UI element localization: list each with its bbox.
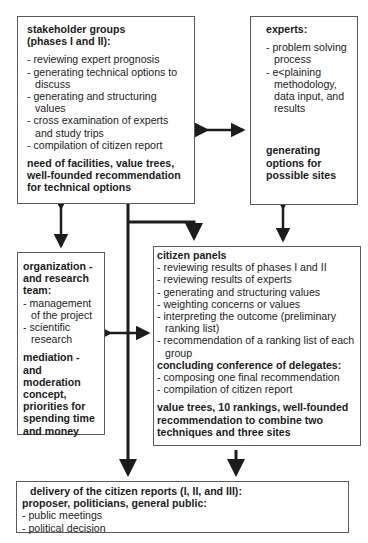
citizen-panels-outcome: value trees, 10 rankings, well-founded r… bbox=[157, 401, 356, 438]
delegates-item: - compilation of citizen report bbox=[157, 383, 356, 395]
stakeholder-outcome: need of facilities, value trees, well-fo… bbox=[27, 157, 187, 194]
citizen-panels-item: - weighting concerns or values bbox=[157, 298, 356, 310]
delivery-box: delivery of the citizen reports (I, II, … bbox=[16, 481, 349, 533]
delegates-conference-title: concluding conference of delegates: bbox=[157, 359, 356, 371]
stakeholder-item: - reviewing expert prognosis bbox=[27, 53, 187, 65]
citizen-panels-item: - reviewing results of experts bbox=[157, 273, 356, 285]
citizen-panels-item: - generating and structuring values bbox=[157, 286, 356, 298]
delivery-item: - political decision bbox=[22, 522, 343, 534]
delivery-audience: proposer, politicians, general public: bbox=[22, 497, 343, 509]
organization-item: - management of the project bbox=[23, 297, 101, 321]
stakeholder-item: - cross examination of experts and study… bbox=[27, 114, 187, 138]
stakeholder-item: - generating and structuring values bbox=[27, 90, 187, 114]
experts-outcome: generating options for possible sites bbox=[266, 144, 351, 181]
citizen-panels-title: citizen panels bbox=[157, 249, 356, 261]
stakeholder-groups-box: stakeholder groups (phases I and II): - … bbox=[17, 16, 195, 204]
delivery-item: - public meetings bbox=[22, 509, 343, 521]
experts-item: - e<plaining methodology, data input, an… bbox=[266, 66, 351, 115]
citizen-panels-box: citizen panels - reviewing results of ph… bbox=[153, 246, 361, 446]
stakeholder-item: - generating technical options to discus… bbox=[27, 66, 187, 90]
delivery-title: delivery of the citizen reports (I, II, … bbox=[22, 485, 343, 497]
organization-outcome: mediation - and moderation concept, prio… bbox=[23, 351, 101, 436]
experts-item: - problem solving process bbox=[266, 41, 351, 65]
stakeholder-title-phase: (phases I and II): bbox=[27, 35, 187, 47]
citizen-panels-item: - recommendation of a ranking list of ea… bbox=[157, 334, 356, 358]
experts-title: experts: bbox=[266, 23, 351, 35]
arrow-stakeholder-citizen bbox=[128, 222, 194, 238]
delegates-item: - composing one final recommendation bbox=[157, 371, 356, 383]
citizen-panels-item: - reviewing results of phases I and II bbox=[157, 261, 356, 273]
organization-team-box: organization - and research team: - mana… bbox=[17, 252, 105, 435]
experts-box: experts: - problem solving process - e<p… bbox=[250, 16, 358, 205]
organization-item: - scientific research bbox=[23, 321, 101, 345]
organization-title: organization - and research team: bbox=[23, 260, 101, 297]
stakeholder-title: stakeholder groups bbox=[27, 23, 187, 35]
stakeholder-item: - compilation of citizen report bbox=[27, 139, 187, 151]
citizen-panels-item: - interpreting the outcome (preliminary … bbox=[157, 310, 356, 334]
